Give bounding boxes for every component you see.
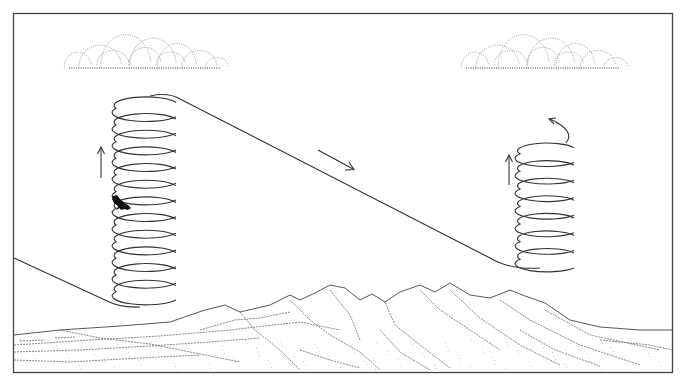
inter-thermal-glide-line [150,95,540,269]
glide-direction-arrow-icon [318,150,354,170]
direction-arrows [98,118,569,185]
figure-caption [13,378,673,389]
exit-arrow-icon [549,118,569,143]
left-cloud [64,35,228,68]
clouds [64,35,627,68]
up-arrow-icon [98,147,105,178]
approach-glide-line [14,258,140,307]
figure-canvas [0,0,685,389]
right-cloud [461,35,627,68]
soaring-illustration [0,0,685,389]
right-thermal-spiral [515,143,574,272]
up-arrow-icon [506,155,513,185]
figure-frame [14,14,673,373]
thermal-spirals [112,97,574,305]
flight-path [14,95,540,308]
